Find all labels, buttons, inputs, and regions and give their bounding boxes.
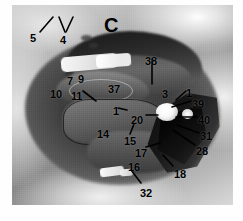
label-5: 5	[30, 33, 36, 44]
label-39: 39	[192, 99, 204, 110]
label-17: 17	[135, 148, 147, 159]
label-15: 15	[124, 136, 136, 147]
label-9: 9	[78, 74, 84, 85]
label-13: 1	[113, 106, 119, 117]
label-40: 40	[198, 115, 210, 126]
label-31: 31	[200, 131, 212, 142]
label-38: 38	[145, 56, 157, 67]
label-10: 10	[50, 89, 62, 100]
label-11: 11	[71, 91, 82, 102]
label-32: 32	[140, 188, 152, 199]
label-16: 16	[128, 162, 140, 173]
panel-letter-label: C	[104, 15, 118, 35]
annotation-layer: C 5438791011373139120403128141517161832	[0, 0, 243, 221]
leader-lines	[0, 0, 243, 221]
label-14: 14	[97, 129, 109, 140]
label-37: 37	[108, 84, 120, 95]
label-4: 4	[60, 35, 66, 46]
figure-panel: C 5438791011373139120403128141517161832	[0, 0, 243, 221]
label-28: 28	[196, 146, 208, 157]
label-7: 7	[67, 76, 73, 87]
label-18: 18	[174, 169, 186, 180]
label-3: 3	[162, 89, 168, 100]
label-20: 20	[131, 115, 143, 126]
